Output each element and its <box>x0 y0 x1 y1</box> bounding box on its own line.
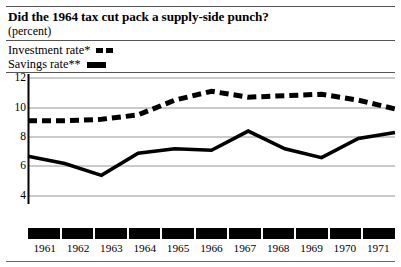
legend-item-investment-rate: Investment rate* <box>8 43 113 58</box>
legend-swatch-solid-icon <box>87 62 106 68</box>
chart-figure: Did the 1964 tax cut pack a supply-side … <box>0 0 401 267</box>
x-axis-blocks <box>28 228 395 239</box>
x-axis-label-1965: 1965 <box>161 241 194 256</box>
legend-swatch-dashed-icon <box>96 48 113 53</box>
x-axis-block-1963 <box>95 228 127 239</box>
x-axis-label-1961: 1961 <box>28 241 61 256</box>
x-axis-block-1962 <box>62 228 94 239</box>
x-axis-block-1967 <box>229 228 261 239</box>
chart-title: Did the 1964 tax cut pack a supply-side … <box>8 9 269 25</box>
legend-rule-bottom <box>6 72 395 73</box>
x-axis-block-1966 <box>196 228 228 239</box>
x-axis-label-1962: 1962 <box>61 241 94 256</box>
legend-label-savings-rate: Savings rate** <box>8 57 81 72</box>
x-axis-label-1966: 1966 <box>195 241 228 256</box>
legend-item-savings-rate: Savings rate** <box>8 57 106 72</box>
x-axis-label-1964: 1964 <box>128 241 161 256</box>
x-axis-block-1970 <box>330 228 362 239</box>
x-axis-label-1967: 1967 <box>228 241 261 256</box>
x-axis-block-1964 <box>129 228 161 239</box>
x-axis-block-1968 <box>263 228 295 239</box>
x-axis-labels: 1961196219631964196519661967196819691970… <box>28 241 395 256</box>
x-axis-block-1969 <box>296 228 328 239</box>
footer-rule <box>6 261 395 262</box>
header-rule-top <box>6 6 395 7</box>
series-line-investment-rate <box>28 91 395 121</box>
x-axis-label-1963: 1963 <box>95 241 128 256</box>
x-axis-label-1969: 1969 <box>295 241 328 256</box>
x-axis-label-1970: 1970 <box>328 241 361 256</box>
x-axis-label-1968: 1968 <box>262 241 295 256</box>
series-line-savings-rate <box>28 131 395 175</box>
x-axis-label-1971: 1971 <box>362 241 395 256</box>
header-rule-bottom <box>6 40 395 41</box>
legend-label-investment-rate: Investment rate* <box>8 43 90 58</box>
chart-subtitle: (percent) <box>8 24 51 39</box>
x-axis-block-1965 <box>162 228 194 239</box>
plot-area <box>0 74 401 204</box>
x-axis-block-1961 <box>28 228 60 239</box>
x-axis-block-1971 <box>363 228 395 239</box>
